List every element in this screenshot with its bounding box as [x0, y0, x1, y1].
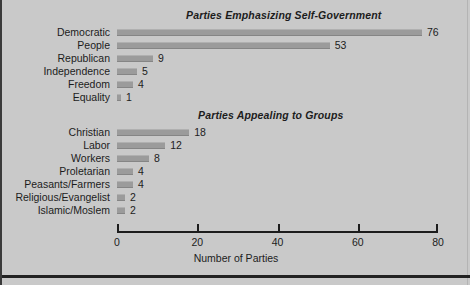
bar-row-label: Islamic/Moslem — [2, 204, 110, 217]
panel-one-title: Parties Emphasizing Self-Government — [186, 9, 381, 21]
bar-row-label: Independence — [2, 65, 110, 78]
bar-row: Labor12 — [2, 139, 470, 152]
bar-value-label: 8 — [154, 152, 160, 165]
bar — [117, 181, 133, 188]
bar-row-label: Democratic — [2, 26, 110, 39]
bar-value-label: 5 — [142, 65, 148, 78]
bar-row: People53 — [2, 39, 470, 52]
axis-tick-label: 40 — [258, 236, 298, 248]
bar-value-label: 4 — [138, 165, 144, 178]
bar — [117, 81, 133, 88]
bar-value-label: 12 — [170, 139, 182, 152]
bar — [117, 55, 153, 62]
bar-value-label: 53 — [335, 39, 347, 52]
axis-tick — [117, 224, 119, 233]
bar-row: Democratic76 — [2, 26, 470, 39]
bar-value-label: 18 — [194, 126, 206, 139]
axis-tick — [436, 224, 438, 233]
bar-row: Peasants/Farmers4 — [2, 178, 470, 191]
axis-tick — [358, 224, 360, 233]
axis-tick-label: 0 — [97, 236, 137, 248]
bar-row: Freedom4 — [2, 78, 470, 91]
bar-value-label: 1 — [126, 91, 132, 104]
bar-row-label: Freedom — [2, 78, 110, 91]
bar-row-label: Workers — [2, 152, 110, 165]
bar-value-label: 4 — [138, 178, 144, 191]
bar-row: Christian18 — [2, 126, 470, 139]
bar-row: Proletarian4 — [2, 165, 470, 178]
bar — [117, 94, 121, 101]
axis-tick-label: 80 — [418, 236, 458, 248]
bar-row-label: Religious/Evangelist — [2, 191, 110, 204]
axis-tick-label: 20 — [177, 236, 217, 248]
bar — [117, 194, 125, 201]
bar-row: Workers8 — [2, 152, 470, 165]
bar-row-label: Christian — [2, 126, 110, 139]
bar-row: Independence5 — [2, 65, 470, 78]
bar-row: Equality1 — [2, 91, 470, 104]
bar — [117, 168, 133, 175]
x-axis-title: Number of Parties — [2, 252, 470, 264]
bar — [117, 68, 137, 75]
panel-two-title: Parties Appealing to Groups — [198, 109, 343, 121]
bar-row: Republican9 — [2, 52, 470, 65]
bar-row: Islamic/Moslem2 — [2, 204, 470, 217]
bar — [117, 129, 189, 136]
bar-value-label: 2 — [130, 191, 136, 204]
bar-row-label: Republican — [2, 52, 110, 65]
bar-row-label: People — [2, 39, 110, 52]
bar-row-label: Peasants/Farmers — [2, 178, 110, 191]
bar-row-label: Labor — [2, 139, 110, 152]
bar-value-label: 2 — [130, 204, 136, 217]
axis-tick-label: 60 — [338, 236, 378, 248]
axis-tick — [197, 224, 199, 233]
bar — [117, 42, 330, 49]
bottom-rule — [2, 275, 470, 278]
bar-row: Religious/Evangelist2 — [2, 191, 470, 204]
bar — [117, 155, 149, 162]
bar-row-label: Proletarian — [2, 165, 110, 178]
bar-value-label: 4 — [138, 78, 144, 91]
bar — [117, 29, 422, 36]
bar — [117, 142, 165, 149]
bar-row-label: Equality — [2, 91, 110, 104]
bar-value-label: 76 — [427, 26, 439, 39]
bar — [117, 207, 125, 214]
bar-value-label: 9 — [158, 52, 164, 65]
axis-tick — [278, 224, 280, 233]
